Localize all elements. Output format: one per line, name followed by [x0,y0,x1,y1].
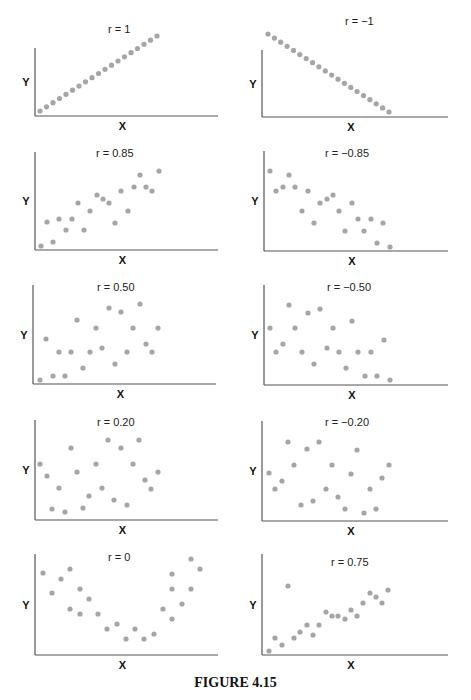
data-point [291,462,296,467]
data-point [310,498,315,503]
data-point [155,325,160,330]
data-point [87,208,92,213]
y-axis-label: Y [22,76,30,88]
data-point [323,68,328,73]
data-point [380,220,385,225]
data-point [330,192,335,197]
data-point [169,571,174,576]
data-point [379,475,384,480]
data-point [135,46,140,51]
data-point [50,100,55,105]
data-point [354,447,359,452]
scatter-panel: r = 1YX [22,23,218,132]
data-point [343,365,348,370]
data-point [336,349,341,354]
data-point [76,83,81,88]
data-point [324,196,329,201]
data-point [136,437,141,442]
data-point [160,606,165,611]
data-point [111,497,116,502]
data-point [292,184,297,189]
scatter-panel: r = −1YX [249,15,448,133]
data-point [149,188,154,193]
data-point [130,461,135,466]
data-point [292,325,297,330]
data-point [279,642,284,647]
data-point [43,336,48,341]
data-point [109,63,114,68]
data-point [316,622,321,627]
data-point [44,219,49,224]
data-point [297,52,302,57]
data-point [348,471,353,476]
data-point [355,216,360,221]
data-point [99,485,104,490]
data-point [118,445,123,450]
data-point [37,461,42,466]
x-axis-label: X [119,254,127,266]
data-point [380,105,385,110]
data-point [298,502,303,507]
data-point [56,349,61,354]
data-point [148,38,153,43]
data-point [316,64,321,69]
data-point [355,89,360,94]
data-point [304,622,309,627]
data-point [368,216,373,221]
data-point [272,36,277,41]
scatter-panel: r = −0.20YX [249,416,448,537]
data-point [132,626,137,631]
x-axis-label: X [347,525,355,537]
data-point [63,92,68,97]
data-point [100,196,105,201]
data-point [361,228,366,233]
correlation-label: r = 0.85 [96,147,134,159]
data-point [149,349,154,354]
data-point [310,632,315,637]
data-point [272,635,277,640]
data-point [122,54,127,59]
data-point [291,48,296,53]
y-axis-label: Y [20,329,28,341]
data-point [304,56,309,61]
data-point [280,184,285,189]
data-point [87,349,92,354]
data-point [355,349,360,354]
data-point [179,601,184,606]
data-point [156,168,161,173]
data-point [56,216,61,221]
data-point [386,462,391,467]
data-point [335,494,340,499]
scatter-panel: r = −0.50YX [251,281,448,401]
data-point [266,648,271,653]
data-point [112,361,117,366]
data-point [143,184,148,189]
data-point [348,85,353,90]
scatter-panel: r = −0.85YX [251,147,448,267]
y-axis-label: Y [251,195,259,207]
data-point [280,341,285,346]
data-point [80,505,85,510]
data-point [335,613,340,618]
x-axis-label: X [348,389,356,401]
data-point [329,462,334,467]
data-point [342,228,347,233]
data-point [374,101,379,106]
data-point [62,509,67,514]
data-point [49,506,54,511]
data-point [137,172,142,177]
data-point [124,349,129,354]
data-point [373,594,378,599]
data-point [114,621,119,626]
scatter-panel: r = 0.20YX [22,416,218,536]
data-point [367,486,372,491]
data-point [297,629,302,634]
data-point [80,365,85,370]
x-axis-label: X [347,121,355,133]
data-point [77,611,82,616]
data-point [44,104,49,109]
data-point [304,446,309,451]
data-point [311,361,316,366]
data-point [374,240,379,245]
correlation-label: r = −0.20 [325,416,369,428]
